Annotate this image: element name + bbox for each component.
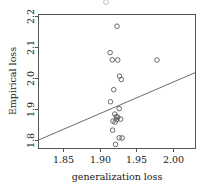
cropped-artifact-icon bbox=[104, 0, 109, 4]
y-tick-label: 1.9 bbox=[25, 102, 36, 117]
data-point bbox=[110, 128, 115, 133]
data-point bbox=[120, 136, 125, 141]
x-tick-label: 1.95 bbox=[126, 154, 147, 165]
data-point bbox=[111, 87, 116, 92]
x-tick-label: 1.90 bbox=[90, 154, 111, 165]
plot-frame bbox=[39, 15, 196, 149]
regression-line bbox=[39, 72, 196, 140]
x-tick-label: 2.00 bbox=[163, 154, 184, 165]
y-tick-label: 1.8 bbox=[25, 133, 36, 148]
x-axis-ticks bbox=[64, 148, 174, 152]
x-axis-title: generalization loss bbox=[72, 171, 163, 182]
data-point bbox=[108, 50, 113, 55]
x-tick-label: 1.85 bbox=[53, 154, 74, 165]
data-point bbox=[110, 58, 115, 63]
chart-canvas: 2.2 2.1 2.0 1.9 1.8 1.85 1.90 1.95 2.00 … bbox=[0, 0, 201, 186]
data-point bbox=[113, 142, 118, 147]
data-point bbox=[117, 106, 122, 111]
y-axis-title: Empirical loss bbox=[7, 47, 18, 115]
y-tick-label: 2.0 bbox=[25, 71, 36, 86]
data-point bbox=[115, 58, 120, 63]
y-axis-tick-labels: 2.2 2.1 2.0 1.9 1.8 bbox=[25, 9, 36, 148]
y-tick-label: 2.1 bbox=[25, 40, 36, 55]
data-point bbox=[108, 99, 113, 104]
data-point bbox=[155, 58, 160, 63]
x-axis-tick-labels: 1.85 1.90 1.95 2.00 bbox=[53, 154, 184, 165]
data-point bbox=[115, 24, 120, 29]
scatter-plot-figure: 2.2 2.1 2.0 1.9 1.8 1.85 1.90 1.95 2.00 … bbox=[0, 0, 201, 186]
y-tick-label: 2.2 bbox=[25, 9, 36, 24]
scatter-points bbox=[108, 24, 159, 147]
